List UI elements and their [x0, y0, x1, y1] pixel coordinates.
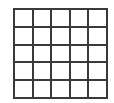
grid-cell — [71, 63, 90, 81]
grid-cell — [71, 46, 90, 64]
grid-cell — [15, 10, 34, 28]
grid-cell — [71, 28, 90, 46]
grid-cell — [89, 28, 108, 46]
grid-cell — [89, 46, 108, 64]
grid-cell — [89, 81, 108, 99]
grid-cell — [52, 63, 71, 81]
grid-cell — [52, 46, 71, 64]
grid-cell — [52, 10, 71, 28]
grid-cell — [71, 81, 90, 99]
grid-cell — [34, 10, 53, 28]
grid-cell — [89, 63, 108, 81]
grid-cell — [71, 10, 90, 28]
grid-cell — [15, 46, 34, 64]
grid-cell — [15, 63, 34, 81]
grid-cell — [34, 81, 53, 99]
grid-cell — [34, 63, 53, 81]
grid-cell — [34, 46, 53, 64]
grid-cell — [89, 10, 108, 28]
grid-cell — [52, 81, 71, 99]
grid-5x5 — [13, 8, 108, 99]
grid-cell — [15, 81, 34, 99]
grid-cell — [52, 28, 71, 46]
grid-cell — [34, 28, 53, 46]
grid-cell — [15, 28, 34, 46]
